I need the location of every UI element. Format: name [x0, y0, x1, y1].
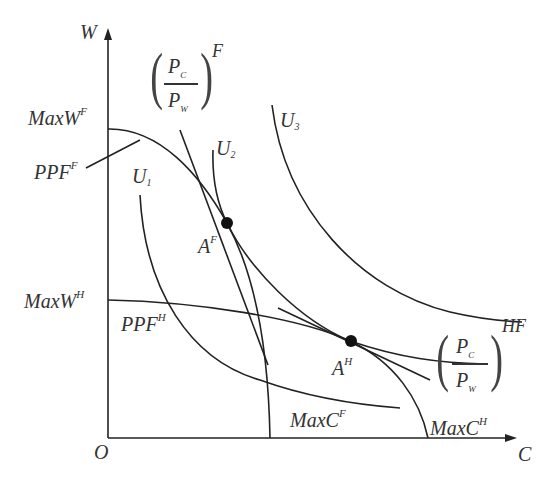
u2-label: U2 — [216, 138, 235, 158]
point-a-h — [345, 335, 357, 347]
price-line-f — [180, 130, 268, 365]
u3-label: U3 — [280, 110, 299, 130]
fraction-bar — [164, 83, 198, 85]
max-c-h-label: MaxCH — [430, 418, 487, 438]
u1-label: U1 — [132, 166, 151, 186]
max-w-h-label: MaxWH — [24, 291, 84, 311]
trade-equilibrium-diagram: W C O MaxWF PPFF MaxWH PPFH MaxCF MaxCH … — [0, 0, 557, 480]
ppf-h-label: PPFH — [121, 314, 166, 334]
origin-label: O — [94, 442, 108, 462]
x-axis-arrow-icon — [505, 434, 517, 442]
a-h-label: AH — [332, 358, 352, 378]
u1-curve — [140, 195, 400, 408]
u3-curve — [272, 105, 522, 322]
left-paren-icon: ( — [150, 44, 163, 108]
fraction-bar — [452, 363, 488, 365]
ppf-f-leader-line — [86, 140, 140, 168]
x-axis-label: C — [518, 444, 531, 464]
price-ratio-hf: ( PC PW ) HF — [436, 320, 546, 410]
y-axis-arrow-icon — [104, 28, 112, 40]
max-c-f-label: MaxCF — [290, 410, 346, 430]
price-ratio-f: ( PC PW ) F — [150, 40, 240, 130]
ppf-f-label: PPFF — [34, 162, 77, 182]
max-w-f-label: MaxWF — [28, 108, 87, 128]
point-a-f — [221, 217, 233, 229]
y-axis-label: W — [80, 22, 97, 42]
a-f-label: AF — [198, 236, 217, 256]
left-paren-icon: ( — [436, 326, 449, 390]
